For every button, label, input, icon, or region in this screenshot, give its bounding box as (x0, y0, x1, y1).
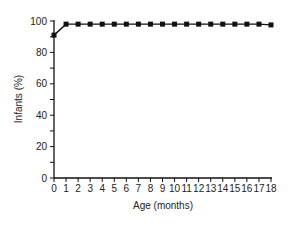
data-point-marker (232, 22, 237, 27)
x-tick-label: 0 (51, 183, 57, 194)
y-axis-ticks: 020406080100 (30, 16, 54, 184)
data-point-marker (172, 22, 177, 27)
x-tick-label: 4 (99, 183, 105, 194)
data-point-marker (124, 22, 129, 27)
data-point-marker (244, 22, 249, 27)
data-point-marker (100, 22, 105, 27)
data-point-marker (208, 22, 213, 27)
data-point-marker (160, 22, 165, 27)
x-tick-label: 7 (136, 183, 142, 194)
x-tick-label: 14 (217, 183, 229, 194)
x-tick-label: 17 (253, 183, 265, 194)
y-tick-label: 100 (30, 16, 47, 27)
y-tick-label: 60 (36, 78, 48, 89)
chart-axes (54, 20, 272, 178)
y-axis-title: Infants (%) (13, 75, 24, 123)
x-tick-label: 15 (229, 183, 241, 194)
data-point-marker (148, 22, 153, 27)
x-tick-label: 6 (124, 183, 130, 194)
data-point-marker (256, 22, 261, 27)
data-point-marker (220, 22, 225, 27)
x-tick-label: 10 (169, 183, 181, 194)
x-tick-label: 3 (87, 183, 93, 194)
data-point-marker (136, 22, 141, 27)
data-series (52, 22, 274, 38)
data-point-marker (88, 22, 93, 27)
data-point-marker (64, 22, 69, 27)
x-tick-label: 12 (193, 183, 205, 194)
data-point-marker (269, 22, 274, 27)
x-tick-label: 8 (148, 183, 154, 194)
x-tick-label: 9 (160, 183, 166, 194)
data-point-marker (112, 22, 117, 27)
line-chart: 020406080100 012345678910111213141516171… (0, 0, 290, 226)
x-tick-label: 13 (205, 183, 217, 194)
data-point-marker (184, 22, 189, 27)
y-tick-label: 20 (36, 141, 48, 152)
x-tick-label: 5 (111, 183, 117, 194)
y-tick-label: 40 (36, 110, 48, 121)
x-axis-ticks: 0123456789101112131415161718 (51, 178, 277, 194)
x-axis-title: Age (months) (133, 200, 193, 211)
data-point-marker (196, 22, 201, 27)
y-tick-label: 0 (41, 173, 47, 184)
x-tick-label: 1 (63, 183, 69, 194)
data-point-marker (52, 33, 57, 38)
x-tick-label: 18 (265, 183, 277, 194)
y-tick-label: 80 (36, 47, 48, 58)
x-tick-label: 11 (181, 183, 192, 194)
x-tick-label: 16 (241, 183, 253, 194)
x-tick-label: 2 (75, 183, 81, 194)
data-point-marker (76, 22, 81, 27)
